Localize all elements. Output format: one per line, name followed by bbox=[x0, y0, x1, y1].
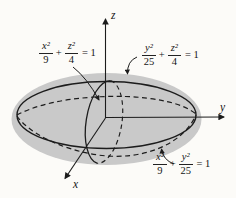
x-axis-label: x bbox=[73, 178, 78, 190]
y-axis bbox=[106, 117, 225, 118]
fraction: y² 25 bbox=[179, 152, 193, 176]
numerator: z² bbox=[65, 41, 78, 54]
equation-xz-trace: x² 9 + z² 4 = 1 bbox=[39, 41, 96, 65]
fraction: z² 4 bbox=[65, 41, 78, 65]
equals-one: = 1 bbox=[183, 50, 199, 61]
y-axis-label: y bbox=[220, 101, 225, 113]
plus-sign: + bbox=[169, 159, 177, 170]
denominator: 4 bbox=[172, 56, 177, 68]
plus-sign: + bbox=[158, 50, 166, 61]
ellipsoid-traces-figure: x² 9 + z² 4 = 1 y² 25 + z² 4 = 1 x² 9 + … bbox=[0, 0, 236, 198]
fraction: z² 4 bbox=[168, 43, 181, 67]
yz-equation-arrow bbox=[127, 57, 137, 74]
equals-one: = 1 bbox=[80, 48, 96, 59]
denominator: 25 bbox=[144, 56, 155, 68]
denominator: 9 bbox=[43, 54, 48, 66]
numerator: x² bbox=[39, 41, 53, 54]
numerator: z² bbox=[168, 43, 181, 56]
numerator: y² bbox=[142, 43, 156, 56]
denominator: 4 bbox=[69, 54, 74, 66]
equation-xy-trace: x² 9 + y² 25 = 1 bbox=[153, 152, 210, 176]
plus-sign: + bbox=[55, 48, 63, 59]
fraction: x² 9 bbox=[153, 152, 167, 176]
denominator: 9 bbox=[157, 165, 162, 177]
z-axis-label: z bbox=[111, 9, 115, 21]
numerator: x² bbox=[153, 152, 167, 165]
fraction: y² 25 bbox=[142, 43, 156, 67]
equals-one: = 1 bbox=[195, 159, 211, 170]
equation-yz-trace: y² 25 + z² 4 = 1 bbox=[142, 43, 199, 67]
numerator: y² bbox=[179, 152, 193, 165]
fraction: x² 9 bbox=[39, 41, 53, 65]
denominator: 25 bbox=[180, 165, 191, 177]
